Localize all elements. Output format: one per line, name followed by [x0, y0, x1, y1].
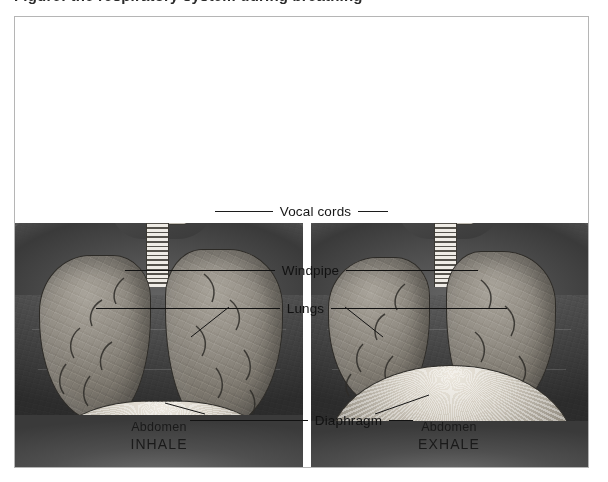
- abdomen-label-exhale: Abdomen: [421, 420, 477, 434]
- panel-exhale: Abdomen EXHALE: [310, 17, 588, 467]
- state-label-inhale: INHALE: [15, 436, 303, 453]
- head-inhale: [67, 21, 303, 236]
- panel-caption-exhale: Abdomen EXHALE: [310, 419, 588, 453]
- lung-left-inhale: [39, 255, 151, 421]
- state-label-exhale: EXHALE: [310, 436, 588, 453]
- head-exhale: [354, 21, 588, 236]
- panel-inhale: Abdomen INHALE: [15, 17, 303, 467]
- panel-divider: [303, 17, 311, 467]
- figure-frame: Abdomen INHALE: [14, 16, 589, 468]
- top-caption-text: Figure: the respiratory system during br…: [14, 0, 363, 4]
- lung-vessels: [40, 256, 150, 420]
- panel-caption-inhale: Abdomen INHALE: [15, 419, 303, 453]
- abdomen-label-inhale: Abdomen: [131, 420, 187, 434]
- top-caption-sliver: Figure: the respiratory system during br…: [0, 0, 608, 13]
